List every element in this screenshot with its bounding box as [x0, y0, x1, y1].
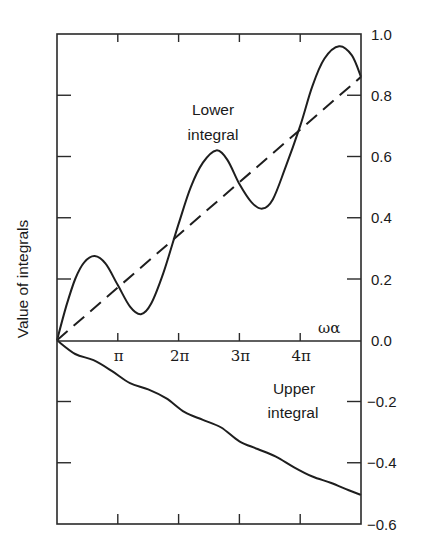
y-tick-label: 1.0: [371, 26, 392, 43]
x-tick-labels: π2π3π4π: [114, 347, 311, 365]
y-tick-label: −0.6: [367, 516, 397, 533]
x-axis-label: ωα: [318, 319, 340, 337]
x-tick-label: π: [114, 347, 124, 365]
y-tick-label: 0.0: [371, 332, 392, 349]
lower-integral-curve: [57, 46, 361, 340]
y-tick-label: 0.6: [371, 148, 392, 165]
y-tick-label: −0.4: [367, 454, 397, 471]
y-axis-title: Value of integrals: [14, 219, 31, 338]
y-tick-label: 0.4: [371, 209, 392, 226]
x-tick-label: 3π: [231, 347, 251, 365]
upper-integral-label-line2: integral: [268, 404, 319, 421]
upper-integral-label-line1: Upper: [273, 380, 315, 397]
x-tick-label: 2π: [170, 347, 190, 365]
lower-integral-label-line1: Lower: [192, 101, 234, 118]
y-tick-labels: 1.00.80.60.40.20.0−0.2−0.4−0.6: [367, 26, 397, 533]
y-tick-label: −0.2: [367, 393, 397, 410]
x-tick-label: 4π: [291, 347, 311, 365]
lower-integral-label-line2: integral: [188, 126, 239, 143]
y-tick-label: 0.2: [371, 271, 392, 288]
integrals-chart: 1.00.80.60.40.20.0−0.2−0.4−0.6 π2π3π4π ω…: [0, 0, 431, 560]
y-tick-label: 0.8: [371, 87, 392, 104]
